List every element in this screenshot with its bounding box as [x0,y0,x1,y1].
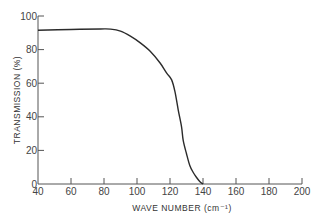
x-tick-label: 160 [228,186,245,197]
x-tick-label: 120 [162,186,179,197]
x-tick-label: 80 [98,186,110,197]
transmission-curve [38,29,203,184]
axes [38,16,302,184]
y-tick-label: 40 [26,111,38,122]
y-tick-label: 80 [26,44,38,55]
x-tick-label: 140 [195,186,212,197]
y-tick-label: 20 [26,145,38,156]
x-tick-label: 60 [65,186,77,197]
x-tick-label: 200 [294,186,311,197]
y-tick-label: 100 [20,11,37,22]
y-tick-label: 60 [26,78,38,89]
y-tick-label: 0 [31,179,37,190]
y-axis-title: TRANSMISSION (%) [12,56,22,144]
x-tick-label: 180 [261,186,278,197]
chart: 406080100120140160180200020406080100 WAV… [0,0,323,216]
tick-labels: 406080100120140160180200020406080100 [20,11,310,198]
x-tick-label: 100 [129,186,146,197]
x-axis-title: WAVE NUMBER (cm⁻¹) [132,203,231,213]
